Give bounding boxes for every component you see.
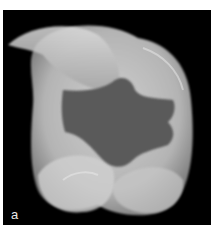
- image-panel: a: [3, 10, 211, 225]
- panel-label: a: [11, 207, 18, 222]
- tooth-image: [3, 10, 211, 225]
